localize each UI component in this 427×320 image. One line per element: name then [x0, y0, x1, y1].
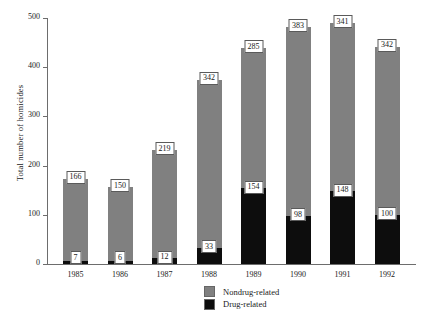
bar-segment-nondrug: [375, 47, 400, 215]
y-axis-tick-label: 100: [28, 209, 40, 218]
y-axis-tick: 100: [0, 215, 47, 216]
bar-value-label-drug: 154: [244, 181, 263, 194]
bar-1992: 342100: [375, 47, 400, 264]
y-axis-tick-label: 500: [28, 12, 40, 21]
bar-value-label-drug: 6: [115, 251, 126, 264]
bar-segment-nondrug: [108, 187, 133, 261]
bar-value-label-nondrug: 219: [155, 142, 174, 155]
plot-area: 1667150621912342332851543839834114834210…: [47, 18, 412, 264]
y-axis-tick-label: 400: [28, 61, 40, 70]
x-axis-line: [47, 264, 416, 265]
bar-1985: 1667: [63, 179, 88, 264]
bar-segment-nondrug: [197, 80, 222, 248]
bar-value-label-drug: 100: [378, 207, 397, 220]
legend-item: Nondrug-related: [204, 286, 279, 297]
y-axis-tick-mark: [43, 264, 47, 265]
y-axis-tick-label: 0: [36, 258, 40, 267]
bar-value-label-nondrug: 342: [200, 72, 219, 85]
bar-1988: 34233: [197, 80, 222, 265]
bar-segment-drug: [375, 215, 400, 264]
bar-segment-nondrug: [152, 150, 177, 258]
bar-1989: 285154: [241, 48, 266, 264]
chart-legend: Nondrug-relatedDrug-related: [204, 286, 279, 311]
bar-value-label-nondrug: 383: [289, 19, 308, 32]
bar-1987: 21912: [152, 150, 177, 264]
y-axis-tick-label: 200: [28, 160, 40, 169]
bar-1986: 1506: [108, 187, 133, 264]
bar-segment-nondrug: [286, 27, 311, 215]
bar-segment-drug: [286, 216, 311, 264]
bar-value-label-nondrug: 285: [244, 40, 263, 53]
bar-segment-drug: [241, 188, 266, 264]
y-axis-tick: 200: [0, 166, 47, 167]
bar-segment-nondrug: [330, 23, 355, 191]
bar-value-label-nondrug: 341: [333, 15, 352, 28]
y-axis-tick: 300: [0, 116, 47, 117]
legend-label: Drug-related: [223, 299, 266, 309]
bar-value-label-nondrug: 342: [378, 39, 397, 52]
bar-1991: 341148: [330, 23, 355, 264]
bar-value-label-nondrug: 166: [66, 171, 85, 184]
bar-value-label-drug: 33: [202, 240, 217, 253]
legend-swatch: [204, 299, 215, 310]
bar-1990: 38398: [286, 27, 311, 264]
y-axis-title: Total number of homicides: [15, 33, 25, 233]
x-axis-label-1992: 1992: [357, 270, 417, 279]
y-axis-tick: 0: [0, 264, 47, 265]
y-axis-tick: 500: [0, 18, 47, 19]
legend-label: Nondrug-related: [223, 287, 279, 297]
bar-value-label-drug: 148: [333, 184, 352, 197]
homicides-stacked-bar-chart: Total number of homicides 01002003004005…: [0, 0, 427, 320]
legend-swatch: [204, 286, 215, 297]
bar-value-label-drug: 7: [70, 251, 81, 264]
bar-value-label-drug: 98: [291, 208, 306, 221]
bar-segment-nondrug: [63, 179, 88, 261]
bar-segment-nondrug: [241, 48, 266, 188]
y-axis-tick: 400: [0, 67, 47, 68]
y-axis-tick-label: 300: [28, 110, 40, 119]
bar-value-label-nondrug: 150: [111, 179, 130, 192]
bar-segment-drug: [330, 191, 355, 264]
legend-item: Drug-related: [204, 299, 279, 310]
bar-value-label-drug: 12: [157, 251, 172, 264]
